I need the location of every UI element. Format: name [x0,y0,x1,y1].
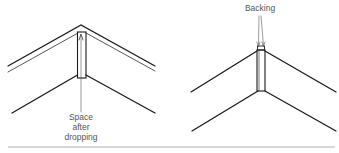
left-lower-line-l [12,75,78,113]
roof-section-drawings [0,0,339,153]
left-lower-line-r [86,75,155,113]
backing-arrow-left [259,16,260,46]
left-label-line-2: after [56,122,106,132]
backing-label: Backing [235,3,285,13]
backing-arrow-right [261,16,264,46]
left-label-line-1: Space [56,112,106,122]
right-lower-line-l [192,91,258,131]
right-upper-line-l [191,51,257,92]
left-label-line-3: dropping [56,132,106,142]
right-upper-line-r [265,51,336,92]
right-post [257,50,265,91]
left-post [78,32,87,78]
left-inner-line [8,33,78,72]
left-label: Space after dropping [56,112,106,142]
diagram-canvas: Space after dropping Backing [0,0,339,153]
left-inner-line-r [86,33,155,71]
right-lower-line-r [265,91,336,131]
left-drawing [8,25,155,113]
right-drawing [191,16,336,131]
